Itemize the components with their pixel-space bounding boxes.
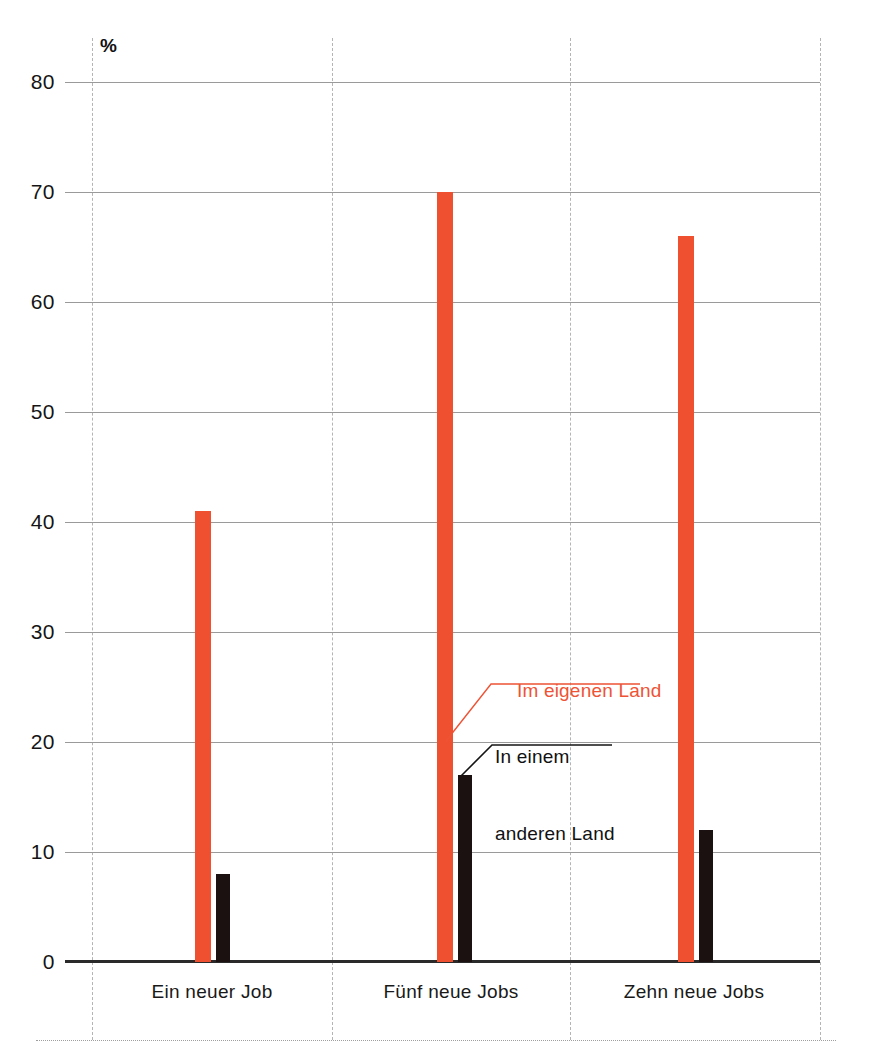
y-axis-tick-labels: 80 70 60 50 40 30 20 10 0: [9, 82, 55, 962]
annotation-other-land-line1: In einem: [495, 744, 615, 770]
gridline-70: [92, 192, 820, 193]
category-label-3: Zehn neue Jobs: [624, 981, 764, 1003]
category-label-1: Ein neuer Job: [151, 981, 272, 1003]
y-tick-label: 0: [9, 950, 55, 974]
bar-other-land-3[interactable]: [699, 830, 713, 962]
bar-other-land-2[interactable]: [458, 775, 472, 962]
vertical-separator-right: [820, 38, 821, 1040]
tick-stub: [65, 742, 92, 743]
tick-stub: [65, 302, 92, 303]
plot-area: [92, 82, 820, 962]
y-tick-label: 70: [9, 180, 55, 204]
annotation-other-land-line2: anderen Land: [495, 821, 615, 847]
tick-stub: [65, 632, 92, 633]
bar-own-land-1[interactable]: [195, 511, 211, 962]
y-tick-label: 30: [9, 620, 55, 644]
y-tick-label: 20: [9, 730, 55, 754]
bar-other-land-1[interactable]: [216, 874, 230, 962]
bar-own-land-3[interactable]: [678, 236, 694, 962]
tick-stub: [65, 960, 92, 963]
gridline-80: [92, 82, 820, 83]
y-tick-label: 80: [9, 70, 55, 94]
bar-chart: % 80 70 60 50 40 30 20 10 0: [0, 0, 872, 1059]
tick-stub: [65, 852, 92, 853]
category-label-2: Fünf neue Jobs: [383, 981, 518, 1003]
annotation-other-land: In einem anderen Land: [495, 693, 615, 898]
y-tick-label: 50: [9, 400, 55, 424]
gridline-50: [92, 412, 820, 413]
tick-stub: [65, 82, 92, 83]
tick-stub: [65, 522, 92, 523]
y-tick-label: 10: [9, 840, 55, 864]
y-tick-label: 40: [9, 510, 55, 534]
tick-stub: [65, 412, 92, 413]
bar-own-land-2[interactable]: [437, 192, 453, 962]
tick-stub: [65, 192, 92, 193]
axis-unit-caption: %: [100, 35, 117, 57]
y-tick-label: 60: [9, 290, 55, 314]
bottom-divider: [36, 1040, 836, 1041]
gridline-60: [92, 302, 820, 303]
